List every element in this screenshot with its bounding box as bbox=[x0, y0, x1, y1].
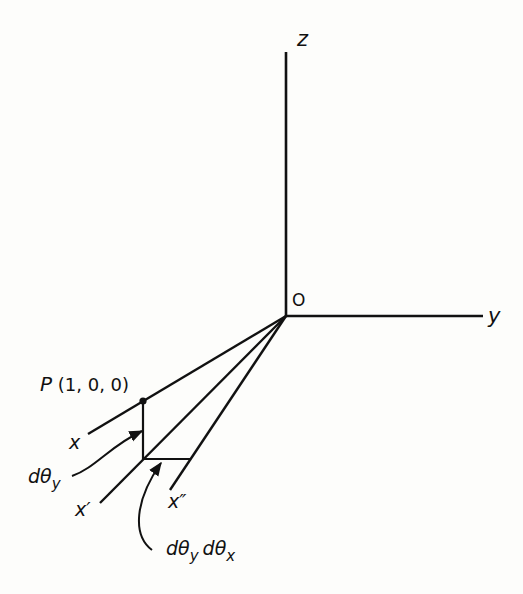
point-p-label: P (1, 0, 0) bbox=[40, 372, 129, 396]
point-p bbox=[139, 397, 146, 404]
origin-label: O bbox=[292, 290, 305, 310]
dtheta-y-arrow bbox=[72, 431, 142, 476]
dtheta-yx-label: dθydθx bbox=[166, 537, 235, 565]
y-axis-label: y bbox=[487, 304, 501, 328]
dtheta-y-label: dθy bbox=[28, 465, 62, 493]
x-double-prime-label: x″ bbox=[167, 490, 186, 512]
x-axis-label: x bbox=[68, 431, 81, 453]
x-prime-label: x′ bbox=[74, 498, 91, 520]
z-axis-label: z bbox=[296, 27, 309, 51]
dtheta-yx-arrow bbox=[139, 463, 161, 550]
x-double-prime-line bbox=[170, 316, 286, 490]
rotation-diagram: z y O P (1, 0, 0) x x′ x″ dθy dθydθx bbox=[0, 0, 523, 594]
point-p-coords: (1, 0, 0) bbox=[52, 374, 129, 395]
